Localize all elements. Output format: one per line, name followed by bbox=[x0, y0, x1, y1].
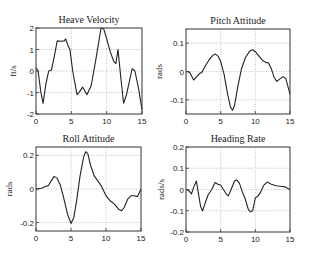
y-axis-label: rads bbox=[154, 64, 164, 79]
data-series-line bbox=[186, 50, 290, 111]
y-tick-label: 0.2 bbox=[23, 151, 35, 160]
y-tick-label: -1 bbox=[27, 89, 35, 98]
y-tick-label: 0.1 bbox=[173, 39, 185, 48]
y-axis-label: rads/s bbox=[156, 179, 166, 200]
y-tick-label: 2 bbox=[30, 24, 35, 33]
x-tick-label: 5 bbox=[218, 235, 223, 244]
x-tick-label: 0 bbox=[184, 235, 189, 244]
y-tick-label: 0 bbox=[30, 185, 35, 194]
x-tick-label: 15 bbox=[286, 235, 295, 244]
x-tick-label: 15 bbox=[137, 234, 146, 243]
x-tick-label: 5 bbox=[69, 234, 74, 243]
x-tick-label: 15 bbox=[138, 117, 147, 126]
x-tick-label: 5 bbox=[218, 117, 223, 126]
x-tick-label: 5 bbox=[69, 117, 74, 126]
x-tick-label: 0 bbox=[184, 117, 189, 126]
subplot-title: Heave Velocity bbox=[58, 14, 119, 25]
subplot-title: Pitch Attitude bbox=[210, 15, 266, 26]
y-tick-label: 0 bbox=[30, 67, 35, 76]
y-tick-label: -0.2 bbox=[170, 228, 184, 237]
y-axis-label: rads bbox=[4, 181, 14, 196]
data-series-line bbox=[36, 28, 142, 110]
subplot-heave-velocity: 051015-2-1012Heave Velocityft/s bbox=[8, 14, 147, 126]
subplot-heading-rate: 051015-0.2-0.100.10.2Heading Raterads/s bbox=[156, 133, 295, 244]
figure: 051015-2-1012Heave Velocityft/s051015-0.… bbox=[0, 0, 309, 259]
x-tick-label: 0 bbox=[34, 117, 39, 126]
y-tick-label: -0.1 bbox=[170, 207, 184, 216]
data-series-line bbox=[36, 152, 141, 224]
data-series-line bbox=[186, 180, 290, 212]
x-tick-label: 15 bbox=[286, 117, 295, 126]
y-tick-label: 0.2 bbox=[173, 143, 185, 152]
x-tick-label: 10 bbox=[251, 235, 260, 244]
y-axis-label: ft/s bbox=[8, 65, 18, 77]
x-tick-label: 0 bbox=[34, 234, 39, 243]
y-tick-label: 1 bbox=[30, 46, 35, 55]
y-tick-label: 0.1 bbox=[173, 164, 185, 173]
y-tick-label: 0 bbox=[180, 68, 185, 77]
subplot-roll-attitude: 051015-0.200.2Roll Attituderads bbox=[4, 133, 146, 243]
y-tick-label: -0.1 bbox=[170, 96, 184, 105]
y-tick-label: -0.2 bbox=[20, 219, 34, 228]
subplot-title: Heading Rate bbox=[211, 133, 266, 144]
x-tick-label: 10 bbox=[102, 117, 111, 126]
subplot-title: Roll Attitude bbox=[63, 133, 116, 144]
subplot-pitch-attitude: 051015-0.100.1Pitch Attituderads bbox=[154, 15, 295, 126]
x-tick-label: 10 bbox=[102, 234, 111, 243]
y-tick-label: -2 bbox=[27, 110, 35, 119]
y-tick-label: 0 bbox=[180, 186, 185, 195]
x-tick-label: 10 bbox=[251, 117, 260, 126]
